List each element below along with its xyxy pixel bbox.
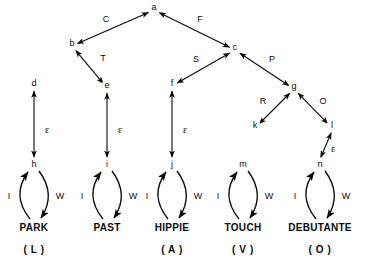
loop-arc-out-j	[177, 171, 186, 218]
loop-label-in-m: I	[217, 191, 220, 201]
loop-arc-out-n	[325, 171, 334, 218]
edge-label-R: R	[260, 96, 267, 106]
epsilon-label-n-l: ε	[331, 143, 335, 154]
loop-arc-out-m	[248, 171, 257, 218]
category-label-hippie: ( A )	[161, 244, 183, 255]
node-k: k	[253, 120, 258, 130]
edges-layer	[34, 12, 331, 157]
edge-label-C: C	[103, 14, 110, 24]
node-l: l	[331, 120, 333, 130]
loop-arc-in-j	[158, 172, 168, 219]
edge-b-e	[76, 51, 103, 84]
node-i: i	[106, 159, 108, 169]
edge-label-P: P	[269, 54, 275, 64]
word-node-park: PARK	[20, 222, 49, 233]
epsilon-label-h-d: ε	[45, 124, 49, 135]
word-node-touch: TOUCH	[225, 222, 262, 233]
node-d: d	[31, 78, 36, 88]
loop-label-out-n: W	[342, 191, 351, 201]
loop-arc-in-h	[20, 172, 30, 219]
node-g: g	[291, 81, 296, 91]
node-n: n	[317, 159, 322, 169]
node-e: e	[104, 80, 109, 90]
word-node-debutante: DEBUTANTE	[288, 222, 352, 233]
node-m: m	[239, 159, 247, 169]
node-a: a	[151, 2, 156, 12]
loop-label-in-i: I	[81, 191, 84, 201]
loop-label-in-n: I	[294, 191, 297, 201]
category-label-park: ( L )	[23, 244, 44, 255]
loop-label-out-m: W	[265, 191, 274, 201]
category-label-touch: ( V )	[232, 244, 254, 255]
edge-label-O: O	[319, 96, 326, 106]
loop-arc-in-i	[93, 172, 103, 219]
loop-label-out-h: W	[56, 191, 65, 201]
node-j: j	[170, 159, 173, 169]
lexical-loops-layer	[20, 171, 334, 219]
loop-arc-out-h	[39, 171, 48, 218]
word-node-hippie: HIPPIE	[155, 222, 190, 233]
epsilon-edge-n-l	[321, 133, 331, 157]
loop-label-in-h: I	[8, 191, 11, 201]
edge-f-c	[177, 53, 230, 83]
node-h: h	[31, 159, 36, 169]
edge-c-g	[240, 53, 289, 85]
category-label-debutante: ( O )	[309, 244, 332, 255]
loop-label-out-j: W	[194, 191, 203, 201]
epsilon-label-j-f: ε	[183, 124, 187, 135]
diagram-canvas: PARK( L )PASTHIPPIE( A )TOUCH( V )DEBUTA…	[0, 0, 374, 267]
edge-b-a	[77, 12, 148, 43]
node-b: b	[69, 38, 74, 48]
loop-arc-in-m	[229, 172, 239, 219]
loop-label-in-j: I	[146, 191, 149, 201]
epsilon-label-i-e: ε	[118, 124, 122, 135]
loop-arc-out-i	[112, 171, 121, 218]
graph-svg: PARK( L )PASTHIPPIE( A )TOUCH( V )DEBUTA…	[0, 0, 374, 267]
loop-label-out-i: W	[129, 191, 138, 201]
word-node-past: PAST	[93, 222, 120, 233]
loop-arc-in-n	[306, 172, 316, 219]
node-c: c	[233, 42, 238, 52]
edge-label-F: F	[197, 14, 203, 24]
edge-a-c	[159, 13, 229, 48]
edge-label-T: T	[100, 53, 106, 63]
edge-label-S: S	[193, 54, 199, 64]
